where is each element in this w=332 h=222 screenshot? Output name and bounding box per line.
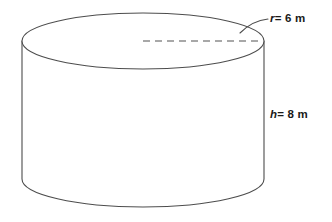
height-label: h= 8 m: [270, 108, 308, 120]
height-value: = 8 m: [277, 108, 308, 120]
radius-value: = 6 m: [275, 12, 306, 24]
radius-label: r= 6 m: [270, 12, 305, 24]
